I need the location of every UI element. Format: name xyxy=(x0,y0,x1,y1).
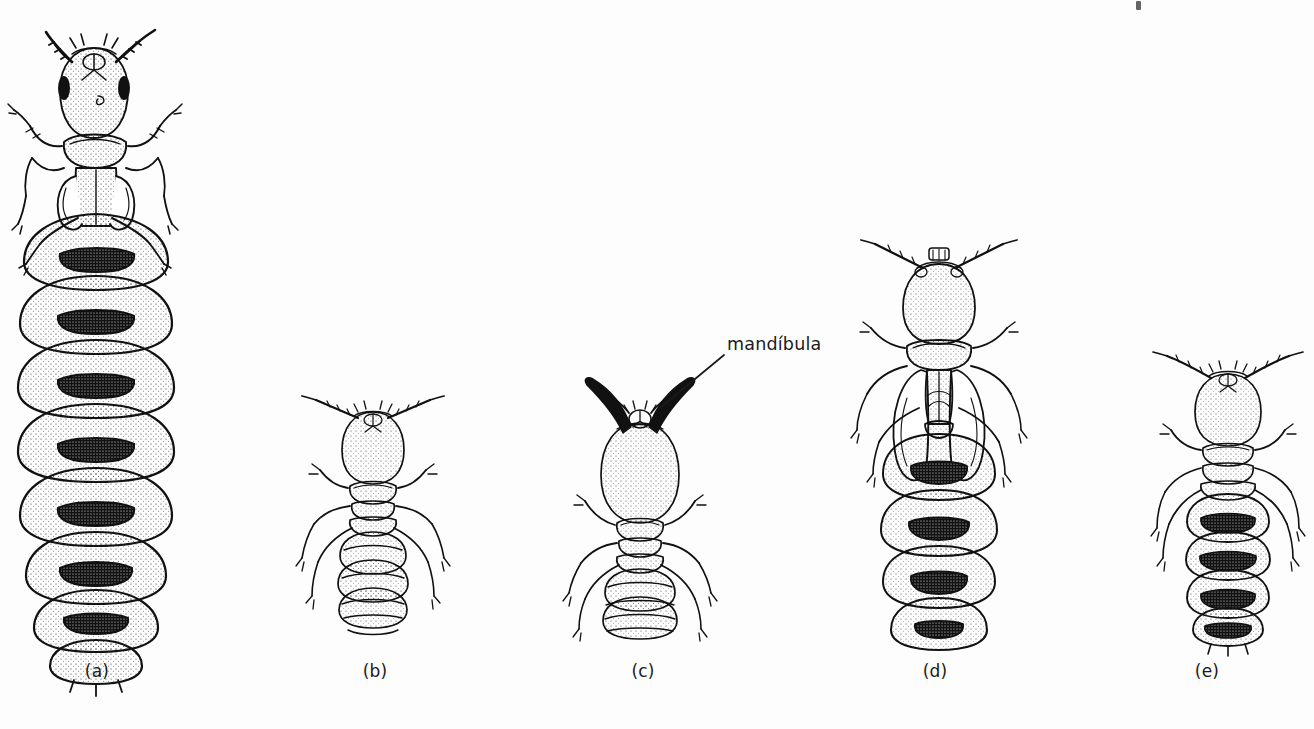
figure-b-worker xyxy=(290,390,465,640)
figure-c-caption: (c) xyxy=(603,661,683,681)
figure-e-neotenic xyxy=(1145,348,1314,648)
figure-a-queen xyxy=(0,18,210,658)
mandibula-leader-line xyxy=(650,345,740,420)
figure-d-caption: (d) xyxy=(895,661,975,681)
figure-b-caption: (b) xyxy=(335,661,415,681)
mandibula-callout-label: mandíbula xyxy=(727,334,821,354)
figure-e-caption: (e) xyxy=(1167,661,1247,681)
illustration-plate: (a) xyxy=(0,0,1314,729)
figure-a-caption: (a) xyxy=(57,661,137,681)
scan-artifact-mark xyxy=(1136,1,1141,10)
figure-d-alate xyxy=(845,238,1035,648)
